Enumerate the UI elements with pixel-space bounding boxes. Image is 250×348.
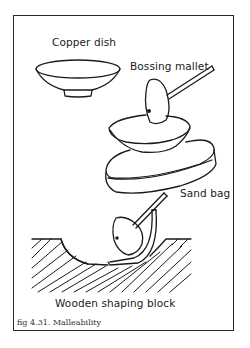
bossing-mallet-label: Bossing mallet [130,60,209,72]
wooden-block-label: Wooden shaping block [55,297,175,309]
malleability-illustration [0,0,250,348]
bossing-mallet-drawing [146,66,215,124]
sand-bag-drawing [106,140,216,193]
figure-caption: fig 4.31. Malleability [17,318,101,327]
copper-dish-label: Copper dish [52,36,116,48]
sand-bag-label: Sand bag [180,187,230,199]
lower-mallet-drawing [108,193,167,265]
copper-dish-drawing [36,60,120,97]
